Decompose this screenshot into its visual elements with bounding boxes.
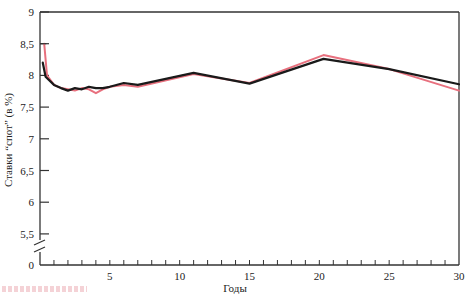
x-tick-label: 15 [244,270,256,282]
x-axis-title: Годы [223,282,247,294]
plot-frame [34,12,459,265]
y-tick-label: 5,5 [20,228,34,240]
y-tick-label: 8 [29,69,35,81]
figure-caption-fragment [2,286,87,292]
x-tick-label: 30 [454,270,466,282]
y-tick-label: 6 [29,196,35,208]
x-tick-label: 25 [384,270,396,282]
y-tick-label: 6,5 [20,165,34,177]
y-tick-label: 7 [29,133,35,145]
spot-rate-chart: 5,566,577,588,59 51015202530 Годы Ставки… [0,0,469,296]
x-tick-label: 20 [314,270,326,282]
series-line-black [43,59,459,91]
y-baseline-zero-label: 0 [29,259,35,271]
y-axis-title: Ставки “спот” (в %) [2,93,15,187]
y-tick-label: 8,5 [20,38,34,50]
x-axis: 51015202530 [54,260,465,282]
x-tick-label: 5 [107,270,113,282]
data-series [40,44,459,93]
axis-break-mark [34,247,45,252]
y-tick-label: 7,5 [20,101,34,113]
axis-break-mark [34,240,45,245]
y-axis: 5,566,577,588,59 [20,6,49,240]
y-tick-label: 9 [29,6,35,18]
series-line-pink [44,44,459,93]
x-tick-label: 10 [174,270,186,282]
